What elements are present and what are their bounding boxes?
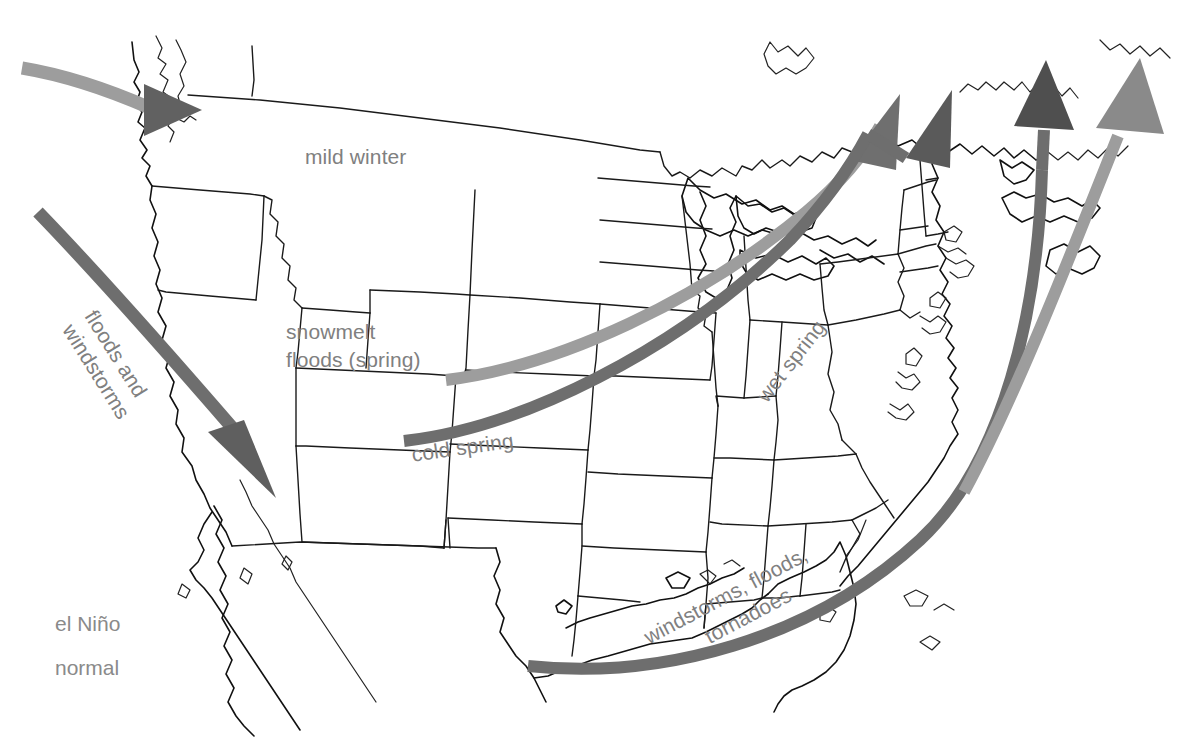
storm-track-arrows <box>22 58 1164 669</box>
label-snowmelt-line2: floods (spring) <box>286 348 421 372</box>
legend: el Niño normal <box>55 612 120 680</box>
arrow-central-elnino <box>404 90 952 441</box>
map-graphic <box>0 0 1196 748</box>
arrow-pacific-northwest-normal <box>22 68 202 136</box>
label-snowmelt-floods: snowmelt floods (spring) <box>286 320 421 372</box>
legend-item-normal: normal <box>55 656 120 680</box>
legend-item-el-nino: el Niño <box>55 612 120 636</box>
climate-map: mild winter snowmelt floods (spring) flo… <box>0 0 1196 748</box>
label-mild-winter: mild winter <box>305 145 406 169</box>
label-snowmelt-line1: snowmelt <box>286 320 421 344</box>
